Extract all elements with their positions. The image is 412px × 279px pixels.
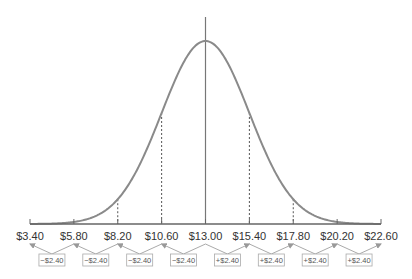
difference-annotation: −$2.40	[118, 244, 162, 266]
difference-annotation: −$2.40	[74, 244, 118, 266]
x-tick-label: $17.80	[276, 230, 310, 242]
difference-label: −$2.40	[172, 256, 195, 265]
difference-annotation: +$2.40	[206, 244, 250, 266]
difference-annotation: −$2.40	[30, 244, 74, 266]
difference-annotation: +$2.40	[337, 244, 381, 266]
x-tick-label: $22.60	[364, 230, 398, 242]
difference-label: +$2.40	[304, 256, 327, 265]
x-tick-label: $5.80	[60, 230, 88, 242]
difference-label: +$2.40	[216, 256, 239, 265]
difference-annotation: −$2.40	[162, 244, 206, 266]
x-tick-labels: $3.40$5.80$8.20$10.60$13.00$15.40$17.80$…	[16, 230, 398, 242]
difference-annotations: −$2.40−$2.40−$2.40−$2.40+$2.40+$2.40+$2.…	[30, 244, 381, 266]
difference-label: −$2.40	[84, 256, 107, 265]
difference-label: −$2.40	[40, 256, 63, 265]
x-tick-label: $3.40	[16, 230, 44, 242]
x-tick-label: $20.20	[320, 230, 354, 242]
x-tick-label: $10.60	[145, 230, 179, 242]
difference-annotation: +$2.40	[293, 244, 337, 266]
x-tick-label: $15.40	[233, 230, 267, 242]
difference-label: −$2.40	[128, 256, 151, 265]
x-tick-label: $13.00	[189, 230, 223, 242]
difference-label: +$2.40	[347, 256, 370, 265]
difference-annotation: +$2.40	[249, 244, 293, 266]
difference-label: +$2.40	[260, 256, 283, 265]
x-tick-label: $8.20	[104, 230, 132, 242]
normal-distribution-chart: $3.40$5.80$8.20$10.60$13.00$15.40$17.80$…	[0, 0, 412, 279]
